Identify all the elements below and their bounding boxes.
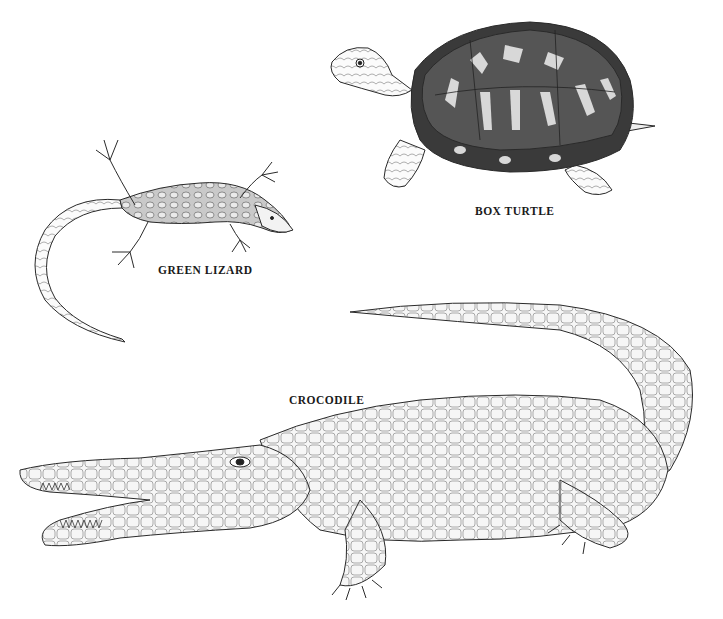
- box-turtle-label: BOX TURTLE: [475, 205, 554, 217]
- box-turtle-drawing: [331, 22, 655, 195]
- green-lizard-label: GREEN LIZARD: [158, 264, 253, 276]
- crocodile-drawing: [20, 303, 693, 600]
- crocodile-label: CROCODILE: [289, 394, 364, 406]
- green-lizard-drawing: [35, 140, 293, 342]
- illustration-canvas: [0, 0, 723, 619]
